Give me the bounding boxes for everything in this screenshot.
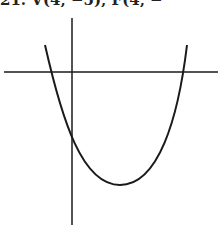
parabola-curve [45, 45, 187, 185]
parabola-graph [0, 0, 218, 225]
